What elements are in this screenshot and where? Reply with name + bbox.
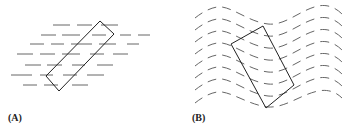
panel-a-rectangle	[46, 21, 114, 91]
panel-b-wavy-lines	[195, 5, 342, 107]
panel-b-label: (B)	[192, 112, 205, 123]
panel-a-dashed-lines	[11, 25, 150, 85]
panel-b-rectangle	[231, 26, 294, 108]
panel-a-label: (A)	[8, 112, 22, 123]
figure-canvas	[0, 0, 344, 135]
